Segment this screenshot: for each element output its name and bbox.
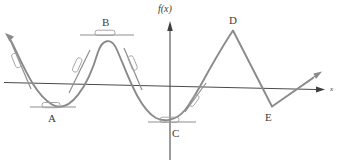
function-graph-figure: f(x) x A B C D E [0,0,342,165]
tangent-left-end [5,33,31,89]
tangent-line-rising [69,50,90,93]
tangent-line-falling [124,48,142,90]
tangent-line-rising-c [185,83,206,112]
point-label-d: D [229,15,237,26]
tangent-line-right [290,74,318,94]
point-label-c: C [172,128,179,139]
tangent-marker-rising-c [188,94,200,108]
x-axis-arrowhead [316,87,325,93]
tangent-right-arrowhead [314,72,323,80]
tangent-at-b [80,30,134,35]
point-label-e: E [265,112,272,123]
y-axis [167,21,173,160]
x-axis-line [4,83,316,90]
graph-canvas [0,0,342,165]
x-axis-label: x [330,86,333,93]
point-label-a: A [48,113,56,124]
y-axis-label: f(x) [158,4,172,14]
tangent-falling-after-b [124,48,142,90]
y-axis-arrowhead [167,21,173,31]
tangent-rising-to-b [69,50,90,93]
x-axis [4,83,325,93]
tangent-marker-rising [72,57,83,73]
tangent-left-arrowhead [5,33,14,42]
tangent-rising-after-c [185,83,206,112]
point-label-b: B [102,17,109,28]
